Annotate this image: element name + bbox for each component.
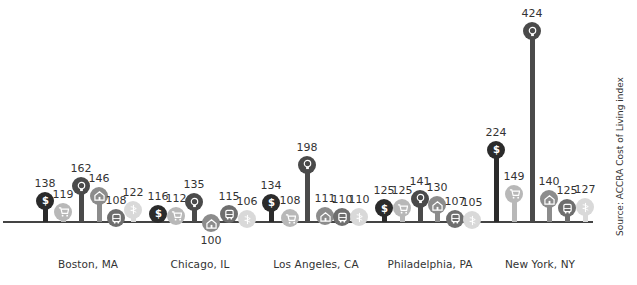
svg-text:$: $ [492,144,499,155]
value-label: 108 [280,194,301,207]
value-label: 110 [349,193,370,206]
bus-icon [446,210,464,228]
value-label: 100 [201,234,222,247]
caduceus-icon [350,208,368,226]
lightbulb-icon [185,193,203,211]
value-label: 134 [261,179,282,192]
value-label: 224 [486,126,507,139]
dollar-icon: $ [375,199,393,217]
cost-of-living-chart: $138119162146108122$116112135100115106$1… [0,0,637,285]
value-label: 105 [462,196,483,209]
bus-icon [558,199,576,217]
house-icon [202,214,220,232]
city-label-boston: Boston, MA [58,258,118,270]
value-label: 106 [237,195,258,208]
pin-stem [530,31,535,222]
svg-text:$: $ [267,198,274,209]
value-label: 198 [297,141,318,154]
value-label: 122 [123,186,144,199]
dollar-icon: $ [36,192,54,210]
bus-icon [220,205,238,223]
dollar-icon: $ [487,141,505,159]
caduceus-icon [238,210,256,228]
cart-icon [167,207,185,225]
cart-icon [505,185,523,203]
svg-text:$: $ [41,195,48,206]
cart-icon [281,209,299,227]
cart-icon [393,199,411,217]
lightbulb-icon [298,156,316,174]
pin-stem [494,150,499,222]
city-label-philadelphia: Philadelphia, PA [387,258,472,270]
house-icon [540,190,558,208]
value-label: 149 [504,170,525,183]
caduceus-icon [124,201,142,219]
value-label: 130 [427,181,448,194]
value-label: 127 [575,183,596,196]
city-label-chicago: Chicago, IL [171,258,230,270]
caduceus-icon [576,198,594,216]
city-label-los-angeles: Los Angeles, CA [273,258,358,270]
value-label: 146 [89,172,110,185]
caduceus-icon [463,211,481,229]
cart-icon [54,203,72,221]
lightbulb-icon [72,177,90,195]
dollar-icon: $ [262,194,280,212]
dollar-icon: $ [149,205,167,223]
house-icon [428,196,446,214]
lightbulb-icon [523,22,541,40]
value-label: 424 [522,7,543,20]
city-label-new-york: New York, NY [505,258,575,270]
source-note: Source: ACCRA Cost of Living index [615,77,625,236]
value-label: 119 [53,188,74,201]
svg-text:$: $ [154,208,161,219]
svg-text:$: $ [380,203,387,214]
value-label: 135 [184,178,205,191]
bus-icon [107,209,125,227]
bus-icon [333,208,351,226]
value-label: 112 [166,192,187,205]
